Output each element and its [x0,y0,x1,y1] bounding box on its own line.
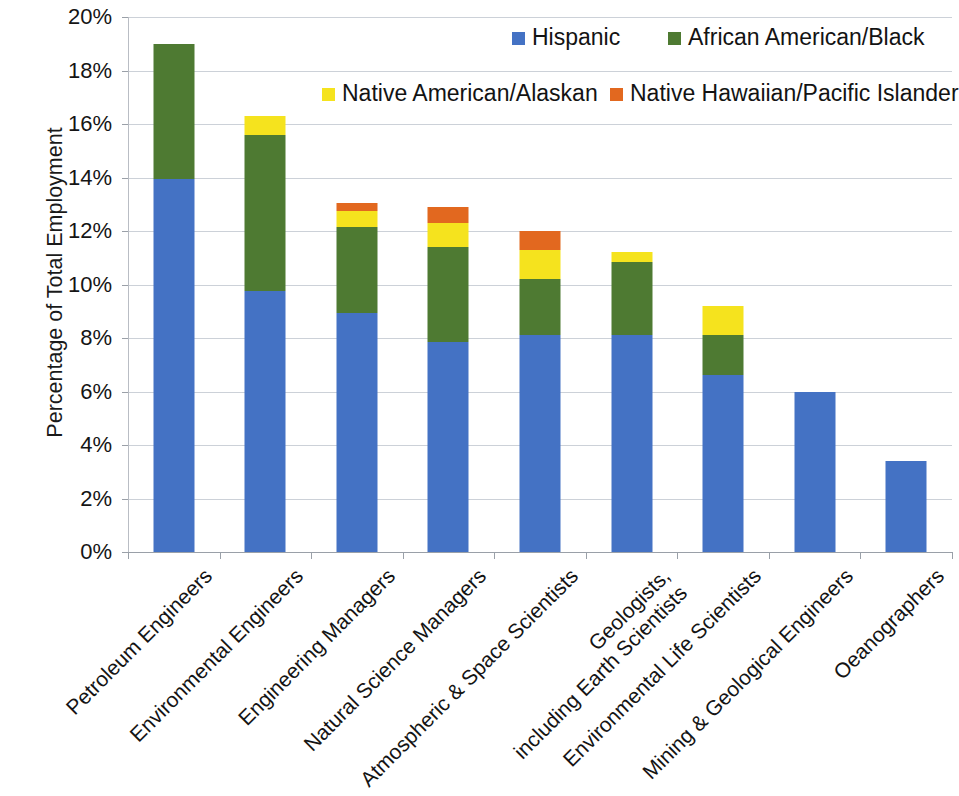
y-axis-tick-label: 10% [68,272,112,298]
bar-segment[interactable] [336,227,377,313]
bar-segment[interactable] [428,342,469,552]
bars-layer [128,17,952,552]
bar-segment[interactable] [336,211,377,227]
bar-segment[interactable] [245,116,286,135]
y-axis-tick-label: 14% [68,165,112,191]
x-axis-tick-mark [860,552,861,559]
bar-group[interactable] [494,17,586,552]
x-axis-tick-label: Engineering Managers [233,564,399,730]
bar-segment[interactable] [886,461,927,552]
bar-segment[interactable] [153,44,194,179]
y-axis-tick-label: 6% [80,379,112,405]
bar-stack[interactable] [703,306,744,552]
bar-group[interactable] [769,17,861,552]
x-axis-tick-mark [952,552,953,559]
bar-group[interactable] [311,17,403,552]
bar-group[interactable] [403,17,495,552]
x-axis-tick-label-line: Engineering Managers [233,564,399,730]
y-axis-tick-label: 16% [68,111,112,137]
x-axis-tick-mark [128,552,129,559]
bar-stack[interactable] [153,44,194,552]
y-axis-tick-label: 18% [68,58,112,84]
bar-segment[interactable] [519,231,560,250]
bar-segment[interactable] [245,291,286,552]
x-axis-tick-label: Environmental Engineers [125,564,308,747]
y-axis-tick-label: 2% [80,486,112,512]
bar-segment[interactable] [336,203,377,211]
bar-segment[interactable] [794,392,835,553]
x-axis-tick-mark [586,552,587,559]
bar-stack[interactable] [611,252,652,552]
bar-group[interactable] [677,17,769,552]
bar-segment[interactable] [519,335,560,552]
bar-segment[interactable] [703,306,744,335]
y-axis-tick-label: 8% [80,325,112,351]
bar-stack[interactable] [794,392,835,553]
y-axis-tick-labels: 0%2%4%6%8%10%12%14%16%18%20% [0,17,122,552]
y-axis-tick-label: 4% [80,432,112,458]
bar-stack[interactable] [519,231,560,552]
x-axis-tick-label-line: Petroleum Engineers [61,564,217,720]
bar-segment[interactable] [428,207,469,223]
bar-segment[interactable] [611,252,652,261]
bar-stack[interactable] [336,203,377,552]
x-axis-tick-labels: Petroleum EngineersEnvironmental Enginee… [0,560,955,796]
bar-segment[interactable] [245,135,286,291]
bar-stack[interactable] [245,116,286,552]
bar-stack[interactable] [886,461,927,552]
y-axis-tick-label: 20% [68,4,112,30]
bar-group[interactable] [586,17,678,552]
bar-segment[interactable] [336,313,377,552]
x-axis-tick-mark [311,552,312,559]
x-axis-tick-label-line: Natural Science Managers [299,564,491,756]
bar-group[interactable] [860,17,952,552]
x-axis-tick-mark [403,552,404,559]
bar-group[interactable] [220,17,312,552]
x-axis-tick-mark [677,552,678,559]
bar-segment[interactable] [703,335,744,375]
x-axis-tick-label-line: Environmental Engineers [125,564,308,747]
x-axis-tick-mark [494,552,495,559]
bar-group[interactable] [128,17,220,552]
bar-segment[interactable] [519,279,560,335]
bar-segment[interactable] [519,250,560,279]
bar-segment[interactable] [428,223,469,247]
x-axis-tick-label: Natural Science Managers [299,564,491,756]
bar-segment[interactable] [703,375,744,552]
y-axis-tick-label: 12% [68,218,112,244]
x-axis-line [128,552,953,553]
bar-segment[interactable] [611,262,652,336]
bar-segment[interactable] [153,179,194,552]
bar-stack[interactable] [428,207,469,552]
bar-segment[interactable] [611,335,652,552]
x-axis-tick-label-line: Geologists, [492,564,675,747]
x-axis-tick-mark [220,552,221,559]
x-axis-tick-label: Petroleum Engineers [61,564,217,720]
x-axis-tick-mark [769,552,770,559]
bar-segment[interactable] [428,247,469,342]
chart-title-clipped [110,0,955,2]
